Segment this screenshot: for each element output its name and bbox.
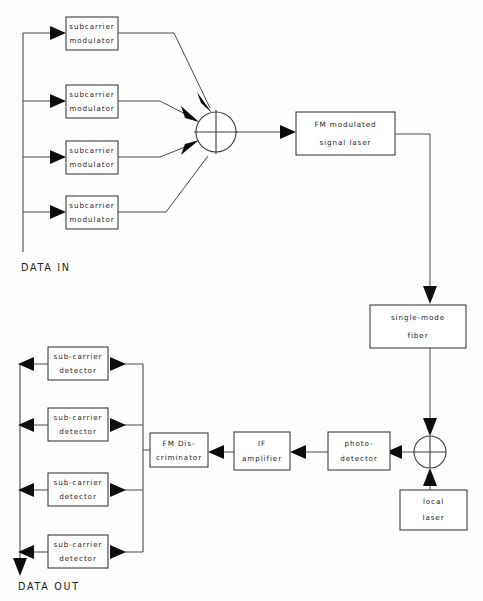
modulator-2-label-line2: modulator [69, 104, 114, 113]
modulator-1-label-line1: subcarrier [69, 22, 114, 31]
fiber-mixer-arrow [423, 418, 437, 436]
input-arrow-3 [50, 150, 66, 164]
modulator-2-label-line1: subcarrier [69, 90, 114, 99]
local-laser[interactable]: local laser [400, 490, 467, 530]
modulator-3-label-line1: subcarrier [69, 146, 114, 155]
subcarrier-modulator-4[interactable]: subcarrier modulator [66, 196, 118, 229]
diagram-svg: subcarrier modulator subcarrier modulato… [0, 0, 483, 601]
sum-to-laser-wire [236, 125, 296, 139]
discriminator-distribution-bus [110, 357, 150, 559]
block-diagram-canvas: subcarrier modulator subcarrier modulato… [0, 0, 483, 601]
photodetector-if-arrow [290, 445, 306, 459]
sub-carrier-detector-3[interactable]: sub-carrier detector [48, 473, 108, 506]
laser-to-fiber-wire [395, 134, 437, 304]
data-in-bus [23, 26, 66, 252]
optical-mixer[interactable] [414, 436, 446, 468]
if-amplifier-label-line2: amplifier [242, 454, 282, 463]
subcarrier-modulator-2[interactable]: subcarrier modulator [66, 85, 118, 118]
modulator-1-label-line2: modulator [69, 36, 114, 45]
detector-2-label-line1: sub-carrier [54, 413, 103, 422]
modulator-3-label-line2: modulator [69, 160, 114, 169]
summing-junction-cross [194, 110, 238, 154]
data-out-label: DATA OUT [18, 581, 80, 592]
summing-junction[interactable] [194, 110, 238, 154]
detector-arrow-3 [110, 483, 126, 497]
if-amplifier-label-line1: IF [258, 439, 266, 448]
detector-4-label-line1: sub-carrier [54, 540, 103, 549]
detector-4-label-line2: detector [59, 554, 97, 563]
input-arrow-1 [50, 26, 66, 40]
if-amplifier[interactable]: IF amplifier [234, 432, 290, 470]
modulator-4-label-line1: subcarrier [69, 201, 114, 210]
if-amplifier-box [234, 432, 290, 470]
photodetector-label-line1: photo- [345, 439, 374, 448]
discriminator-label-line1: FM Dis- [163, 439, 196, 448]
fm-laser-label-line1: FM modulated [314, 120, 376, 129]
local-laser-label-line2: laser [422, 513, 444, 522]
sum-wire-1 [118, 33, 210, 108]
fiber-to-mixer-wire [423, 348, 437, 436]
local-laser-label-line1: local [423, 497, 444, 506]
input-arrow-4 [50, 205, 66, 219]
detector-1-label-line1: sub-carrier [54, 352, 103, 361]
detector-arrow-4 [110, 545, 126, 559]
discriminator-label-line2: criminator [156, 453, 202, 462]
sub-carrier-detector-4[interactable]: sub-carrier detector [48, 535, 108, 568]
sub-carrier-detector-2[interactable]: sub-carrier detector [48, 408, 108, 441]
detector-2-label-line2: detector [59, 427, 97, 436]
sum-wire-4 [118, 156, 208, 212]
subcarrier-modulator-3[interactable]: subcarrier modulator [66, 141, 118, 174]
photodetector-label-line2: detector [340, 454, 378, 463]
local-laser-mixer-arrow [423, 468, 437, 486]
sum-arrow-4 [195, 152, 211, 172]
fm-laser-label-line2: signal laser [320, 138, 372, 147]
input-arrow-2 [50, 94, 66, 108]
single-mode-fiber[interactable]: single-mode fiber [370, 305, 466, 348]
detector-arrow-2 [110, 418, 126, 432]
detector-3-label-line1: sub-carrier [54, 478, 103, 487]
sum-arrow-2 [181, 106, 199, 122]
fm-modulated-signal-laser[interactable]: FM modulated signal laser [296, 112, 395, 155]
fm-discriminator[interactable]: FM Dis- criminator [150, 433, 208, 467]
sub-carrier-detector-1[interactable]: sub-carrier detector [48, 347, 108, 380]
fm-laser-box [296, 112, 395, 155]
photodetector-box [328, 432, 390, 470]
detector-3-label-line2: detector [59, 492, 97, 501]
modulator-4-label-line2: modulator [69, 215, 114, 224]
laser-fiber-arrow [423, 286, 437, 304]
data-out-bus [13, 357, 48, 576]
subcarrier-modulator-1[interactable]: subcarrier modulator [66, 17, 118, 50]
photodetector-to-if-wire [290, 445, 328, 459]
sum-laser-arrow [280, 125, 296, 139]
detector-1-label-line2: detector [59, 366, 97, 375]
if-to-discriminator-wire [208, 445, 234, 459]
data-out-arrow [13, 558, 27, 576]
photo-detector[interactable]: photo- detector [328, 432, 390, 470]
detector-arrow-1 [110, 357, 126, 371]
if-discriminator-arrow [208, 445, 224, 459]
laser-fiber-line [395, 134, 430, 298]
local-laser-to-mixer-wire [423, 468, 437, 490]
fiber-box [370, 305, 466, 348]
fiber-label-line1: single-mode [391, 313, 445, 322]
sum-arrow-1 [197, 92, 212, 113]
data-in-label: DATA IN [21, 262, 71, 273]
fiber-label-line2: fiber [408, 331, 429, 340]
